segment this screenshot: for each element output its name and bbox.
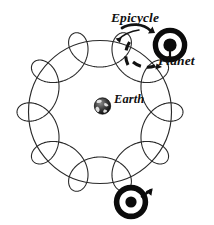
label-epicycle: Epicycle [111, 11, 159, 25]
epicycle-diagram-svg [0, 0, 214, 225]
earth-globe-icon [94, 98, 110, 114]
curved-arrow-icon [116, 25, 156, 43]
diagram-canvas: Epicycle Planet Earth [0, 0, 214, 225]
mars-symbol-icon [117, 188, 153, 217]
label-planet: Planet [158, 54, 195, 68]
label-earth: Earth [114, 93, 144, 106]
